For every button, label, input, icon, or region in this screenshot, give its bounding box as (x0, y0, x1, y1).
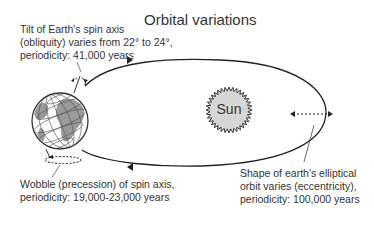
precession-label: Wobble (precession) of spin axis, period… (20, 178, 174, 204)
eccentricity-label: Shape of earth's elliptical orbit varies… (240, 167, 360, 206)
obliquity-line-3: periodicity: 41,000 years (20, 49, 173, 62)
obliquity-label: Tilt of Earth's spin axis (obliquity) va… (20, 23, 173, 62)
orbit-arrow-bottom (127, 163, 133, 171)
eccentricity-line-2: orbit varies (eccentricity), (240, 180, 360, 193)
obliquity-line-2: (obliquity) varies from 22° to 24°, (20, 36, 173, 49)
obliquity-leader (77, 62, 81, 72)
wobble-ellipse (45, 155, 81, 164)
globe-icon (31, 88, 89, 155)
obliquity-line-1: Tilt of Earth's spin axis (20, 23, 173, 36)
sun-label: Sun (217, 101, 242, 117)
precession-line-2: periodicity: 19,000-23,000 years (20, 191, 174, 204)
eccentricity-line-3: periodicity: 100,000 years (240, 193, 360, 206)
precession-leader (52, 165, 60, 177)
precession-line-1: Wobble (precession) of spin axis, (20, 178, 174, 191)
tilt-arrow (71, 78, 88, 85)
eccentricity-line-1: Shape of earth's elliptical (240, 167, 360, 180)
orbit-path (82, 59, 326, 166)
